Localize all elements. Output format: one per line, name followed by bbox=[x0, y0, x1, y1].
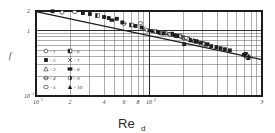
svg-text:- 1: - 1 bbox=[50, 49, 55, 54]
y-tick: 1 bbox=[27, 28, 30, 34]
svg-text:d: d bbox=[141, 124, 145, 133]
svg-text:2: 2 bbox=[27, 8, 30, 14]
svg-text:10: 10 bbox=[146, 99, 152, 105]
svg-text:- 10: - 10 bbox=[74, 85, 82, 90]
svg-text:10: 10 bbox=[24, 93, 30, 99]
svg-text:1: 1 bbox=[27, 28, 30, 34]
svg-text:1: 1 bbox=[41, 97, 43, 102]
svg-text:3: 3 bbox=[260, 99, 264, 105]
svg-text:- 9: - 9 bbox=[74, 76, 80, 81]
y-tick: 2 bbox=[27, 8, 30, 14]
chart-background bbox=[0, 0, 275, 133]
x-tick: 8 bbox=[137, 99, 140, 105]
svg-text:Re: Re bbox=[118, 116, 135, 131]
chart-root: 10124681023 2110-1 - 1 - 2 - 3 - 4 - 5 -… bbox=[0, 0, 275, 133]
x-tick: 4 bbox=[103, 99, 106, 105]
svg-text:- 3: - 3 bbox=[50, 67, 56, 72]
svg-text:2: 2 bbox=[69, 99, 72, 105]
svg-text:- 4: - 4 bbox=[50, 76, 56, 81]
svg-text:4: 4 bbox=[103, 99, 106, 105]
log-log-scatter-chart: 10124681023 2110-1 - 1 - 2 - 3 - 4 - 5 -… bbox=[0, 0, 275, 133]
svg-text:6: 6 bbox=[122, 99, 125, 105]
svg-text:- 8: - 8 bbox=[74, 67, 80, 72]
svg-text:10: 10 bbox=[33, 99, 39, 105]
x-tick: 3 bbox=[260, 99, 264, 105]
svg-text:-1: -1 bbox=[31, 91, 34, 96]
svg-text:- 7: - 7 bbox=[74, 58, 80, 63]
svg-text:- 5: - 5 bbox=[50, 85, 56, 90]
svg-text:8: 8 bbox=[137, 99, 140, 105]
x-tick: 2 bbox=[69, 99, 72, 105]
x-tick: 6 bbox=[122, 99, 125, 105]
svg-text:- 2: - 2 bbox=[50, 58, 56, 63]
gridlines bbox=[36, 11, 262, 96]
svg-text:- 6: - 6 bbox=[74, 49, 80, 54]
svg-text:2: 2 bbox=[154, 97, 156, 102]
